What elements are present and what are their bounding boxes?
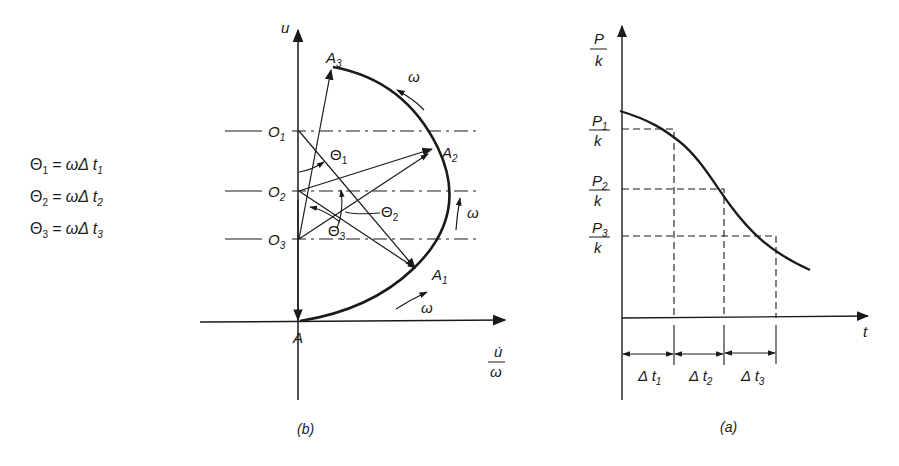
interval-markers	[623, 325, 776, 365]
time-axis-label: t	[863, 323, 868, 340]
omega-label-bottom: ω	[421, 299, 433, 316]
diagram-a-force-time	[620, 26, 868, 400]
label-O1: O1	[268, 123, 285, 143]
label-theta2: Θ2	[381, 203, 399, 223]
y-axis-label-num: P	[594, 30, 604, 47]
vector-O2-A1	[299, 191, 415, 268]
load-curve	[620, 111, 810, 270]
velocity-axis	[200, 320, 505, 322]
theta2-leader	[345, 212, 380, 214]
level-label-p2: P2	[592, 172, 608, 192]
equations: Θ1= ωΔ t1 Θ2= ωΔ t2 Θ3= ωΔ t3	[30, 156, 103, 240]
interval-label-dt3: Δ t3	[740, 367, 765, 387]
caption-b: (b)	[297, 421, 314, 437]
equation-theta3: Θ3= ωΔ t3	[30, 220, 103, 240]
step-lines	[622, 129, 776, 318]
omega-label-top: ω	[408, 68, 420, 85]
level-label-p3: P3	[592, 219, 608, 239]
label-A1: A1	[431, 266, 448, 286]
label-O2: O2	[268, 183, 286, 203]
equation-theta1: Θ1= ωΔ t1	[30, 156, 103, 176]
interval-label-dt1: Δ t1	[637, 367, 661, 387]
y-axis-label-den: k	[595, 52, 604, 69]
omega-arrow-mid	[456, 198, 460, 230]
velocity-axis-label-den: ω	[490, 363, 502, 380]
level-label-p1: P1	[592, 112, 608, 132]
vector-O1-A1	[299, 131, 415, 268]
time-axis	[622, 316, 868, 318]
level-label-p2-den: k	[594, 192, 603, 209]
omega-label-mid: ω	[467, 204, 479, 221]
label-theta1: Θ1	[330, 146, 348, 166]
interval-label-dt2: Δ t2	[688, 367, 713, 387]
level-label-p3-den: k	[594, 239, 603, 256]
diagram-a-labels: P k P1 k P2 k P3 k t Δ t1 Δ t2 Δ t3 (a)	[589, 30, 868, 435]
label-A: A	[292, 329, 303, 346]
diagram-b-labels: u A3 A2 A1 A O1 O2 O3 Θ1 Θ2 Θ3 ω ω ω u̇ …	[268, 19, 505, 437]
u-axis-label: u	[281, 19, 290, 36]
vector-O3-A2	[299, 154, 428, 239]
equation-theta2: Θ2= ωΔ t2	[30, 188, 103, 208]
figure-canvas: Θ1= ωΔ t1 Θ2= ωΔ t2 Θ3= ωΔ t3	[0, 0, 899, 466]
velocity-axis-label-num: u̇	[494, 343, 503, 360]
trajectory-arc	[300, 67, 450, 321]
caption-a: (a)	[720, 419, 737, 435]
level-label-p1-den: k	[594, 132, 603, 149]
vector-O3-A3	[299, 70, 331, 239]
label-O3: O3	[268, 231, 286, 251]
diagram-b-phase-plane	[200, 30, 505, 400]
